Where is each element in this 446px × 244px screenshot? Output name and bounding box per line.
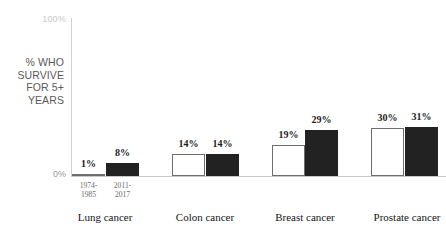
bar-value-breast-1974-1985: 19% [272,129,305,140]
bar-lung-2011-2017 [106,163,139,176]
bar-value-prostate-1974-1985: 30% [371,112,404,123]
group-label-prostate-cancer: Prostate cancer [348,211,446,223]
bar-value-lung-2011-2017: 8% [106,147,139,158]
group-label-lung-cancer: Lung cancer [50,211,160,223]
bar-prostate-1974-1985 [371,128,404,176]
bar-value-colon-1974-1985: 14% [172,138,205,149]
bar-value-lung-1974-1985: 1% [72,158,105,169]
x-tick-label-2011-2017: 2011- 2017 [102,181,143,200]
bar-lung-1974-1985 [72,174,105,176]
bar-value-breast-2011-2017: 29% [305,114,338,125]
bar-value-colon-2011-2017: 14% [206,138,239,149]
bar-prostate-2011-2017 [405,127,438,176]
survival-rate-bar-chart: 100% 0% % WHO SURVIVE FOR 5+ YEARS 1% 8%… [0,0,446,244]
group-label-breast-cancer: Breast cancer [250,211,360,223]
group-label-colon-cancer: Colon cancer [150,211,260,223]
bar-colon-1974-1985 [172,154,205,176]
bar-colon-2011-2017 [206,154,239,176]
plot-area: 1% 8% 14% 14% 19% 29% 30% 31% [0,0,446,244]
bar-value-prostate-2011-2017: 31% [405,111,438,122]
bar-breast-2011-2017 [305,130,338,176]
bar-breast-1974-1985 [272,145,305,176]
